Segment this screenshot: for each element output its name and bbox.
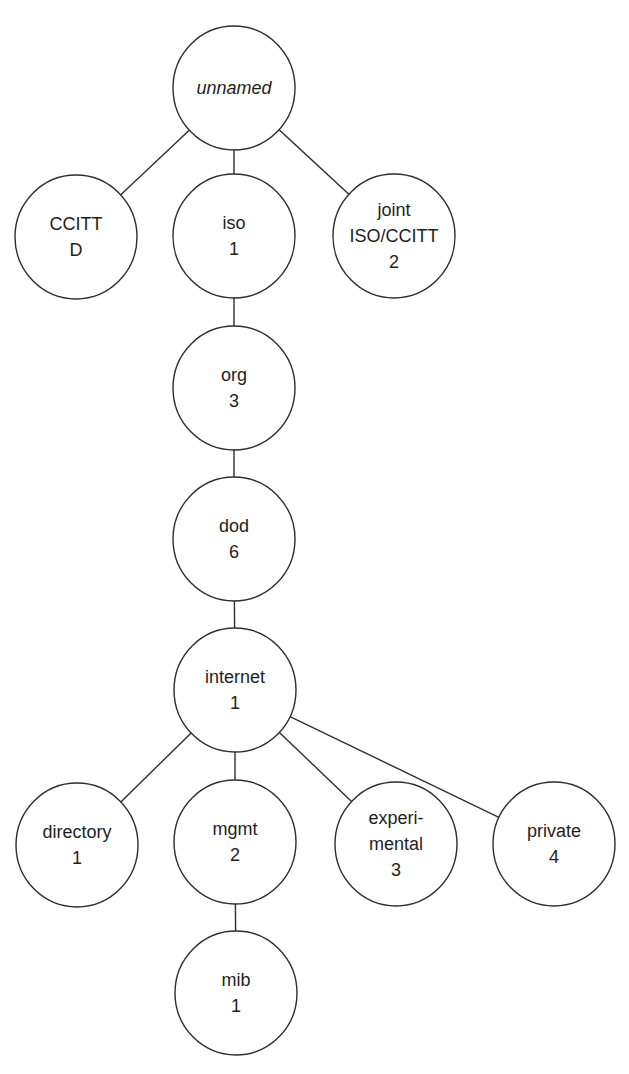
node-circle [174,780,296,904]
node-label: CCITT [50,214,103,234]
node-label: private [527,821,581,841]
node-number: 6 [229,542,239,562]
node-label: ISO/CCITT [350,226,439,246]
node-label: mib [221,970,250,990]
node-circle [174,628,296,752]
node-private: private4 [493,782,615,906]
node-iso: iso1 [173,174,295,298]
node-circle [173,174,295,298]
node-experimental: experi-mental3 [335,782,457,906]
node-circle [173,477,295,601]
node-label: experi- [368,808,423,828]
node-number: D [70,240,83,260]
node-label: unnamed [196,78,272,98]
node-number: 4 [549,847,559,867]
node-number: 1 [72,848,82,868]
node-number: 1 [229,239,239,259]
node-mib: mib1 [175,931,297,1055]
node-internet: internet1 [174,628,296,752]
node-label: org [221,365,247,385]
node-label: directory [42,822,111,842]
node-label: joint [376,200,410,220]
node-ccitt: CCITTD [15,175,137,299]
node-label: mgmt [213,819,258,839]
node-dod: dod6 [173,477,295,601]
node-circle [493,782,615,906]
node-unnamed: unnamed [173,26,295,150]
edges-layer [76,88,554,993]
node-org: org3 [173,326,295,450]
node-label: internet [205,667,265,687]
node-number: 3 [391,860,401,880]
node-number: 1 [231,996,241,1016]
node-mgmt: mgmt2 [174,780,296,904]
node-label: dod [219,516,249,536]
node-joint: jointISO/CCITT2 [333,174,455,298]
node-number: 2 [230,845,240,865]
node-circle [175,931,297,1055]
node-circle [173,326,295,450]
node-number: 3 [229,391,239,411]
node-label: mental [369,834,423,854]
node-number: 1 [230,693,240,713]
node-label: iso [222,213,245,233]
node-circle [15,175,137,299]
node-circle [16,783,138,907]
node-directory: directory1 [16,783,138,907]
node-number: 2 [389,252,399,272]
oid-tree-diagram: unnamedCCITTDiso1jointISO/CCITT2org3dod6… [0,0,629,1074]
nodes-layer: unnamedCCITTDiso1jointISO/CCITT2org3dod6… [15,26,615,1055]
